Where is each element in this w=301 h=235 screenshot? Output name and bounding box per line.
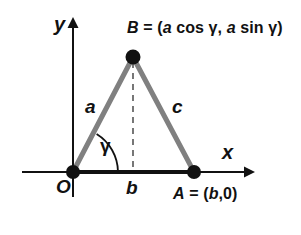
point-a-b: b: [209, 185, 219, 202]
side-b-label: b: [126, 178, 138, 197]
point-a-rest: ,0): [219, 185, 238, 202]
point-b-coordinate-label: B = (a cos γ, a sin γ): [127, 20, 283, 36]
point-b-cos: cos: [172, 19, 209, 36]
vertex-dot-b: [126, 50, 141, 65]
point-b-gamma1: γ: [209, 19, 218, 36]
point-b-comma: ,: [218, 19, 227, 36]
origin-label: O: [56, 177, 71, 196]
point-b-gamma2: γ: [268, 19, 277, 36]
point-a-equals: = (: [185, 185, 209, 202]
x-axis-label: x: [222, 142, 233, 162]
x-axis-arrowhead-icon: [244, 167, 255, 178]
geometry-figure: y x O a c b γ B = (a cos γ, a sin γ) A =…: [0, 0, 301, 235]
point-b-equals: = (: [139, 19, 163, 36]
point-b-a2: a: [227, 19, 236, 36]
point-b-sin: sin: [236, 19, 269, 36]
point-b-a1: a: [163, 19, 172, 36]
point-b-close-paren: ): [277, 19, 282, 36]
triangle-side-c: [133, 57, 194, 172]
side-c-label: c: [172, 97, 183, 116]
side-a-label: a: [85, 97, 96, 116]
vertex-dot-a: [187, 165, 201, 179]
point-a-name: A: [173, 185, 185, 202]
angle-gamma-label: γ: [100, 136, 111, 155]
y-axis-arrowhead-icon: [68, 17, 79, 28]
point-b-name: B: [127, 19, 139, 36]
y-axis-label: y: [54, 14, 65, 34]
point-a-coordinate-label: A = (b,0): [173, 186, 237, 202]
